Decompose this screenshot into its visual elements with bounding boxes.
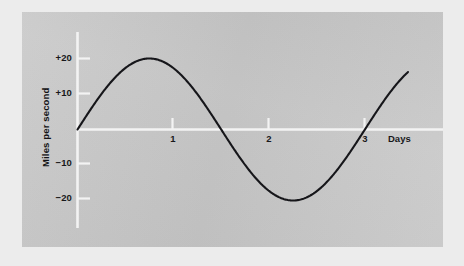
x-tick-label-1: 1 bbox=[163, 133, 183, 144]
x-tick-label-2: 2 bbox=[259, 133, 279, 144]
y-axis-title: Miles per second bbox=[40, 88, 51, 167]
y-tick-label-minus-20: −20 bbox=[44, 192, 72, 203]
x-axis-title: Days bbox=[388, 133, 411, 144]
y-tick-label-plus-20: +20 bbox=[44, 52, 72, 63]
figure-root: +20 +10 −10 −20 1 2 3 Days Miles per sec… bbox=[0, 0, 464, 266]
x-tick-label-3: 3 bbox=[355, 133, 375, 144]
